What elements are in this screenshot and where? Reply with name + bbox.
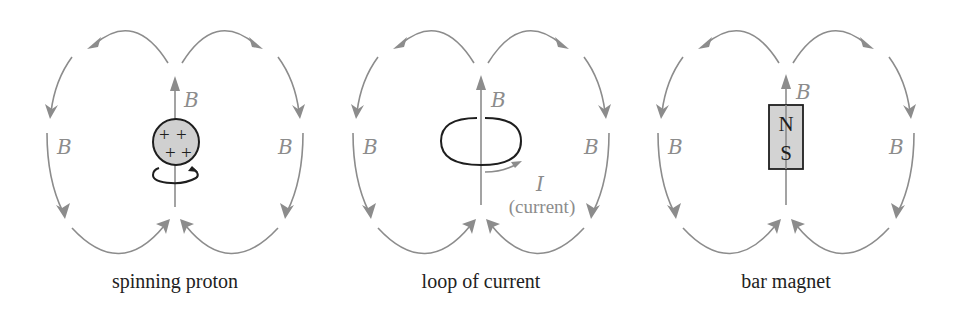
caption-loop-of-current: loop of current xyxy=(422,270,541,293)
north-pole-label: N xyxy=(778,112,793,136)
charge-plus: + xyxy=(181,142,192,163)
b-label-axis: B xyxy=(490,88,506,112)
magnetic-dipole-figure: B B B + + + + spinning proton B B B I (c… xyxy=(0,0,958,316)
panel-spinning-proton: B B B + + + + spinning proton xyxy=(45,31,305,293)
caption-spinning-proton: spinning proton xyxy=(112,270,238,293)
up-arrow-icon xyxy=(781,74,791,89)
b-label-left: B xyxy=(667,135,683,159)
b-label-right: B xyxy=(277,135,293,159)
b-label-axis: B xyxy=(183,88,199,112)
up-arrow-icon xyxy=(476,75,486,90)
caption-bar-magnet: bar magnet xyxy=(741,270,831,293)
south-pole-label: S xyxy=(780,141,792,165)
b-label-left: B xyxy=(362,135,378,159)
b-label-right: B xyxy=(583,135,599,159)
b-label-right: B xyxy=(888,135,904,159)
current-label: (current) xyxy=(509,196,575,218)
current-symbol: I xyxy=(535,172,545,196)
up-arrow-icon xyxy=(170,76,180,91)
panel-bar-magnet: B B B N S bar magnet xyxy=(656,31,916,293)
b-label-axis: B xyxy=(795,80,811,104)
charge-plus: + xyxy=(165,142,176,163)
spin-arrowhead-icon xyxy=(188,166,198,172)
b-label-left: B xyxy=(56,135,72,159)
panel-loop-of-current: B B B I (current) loop of current xyxy=(351,31,611,293)
